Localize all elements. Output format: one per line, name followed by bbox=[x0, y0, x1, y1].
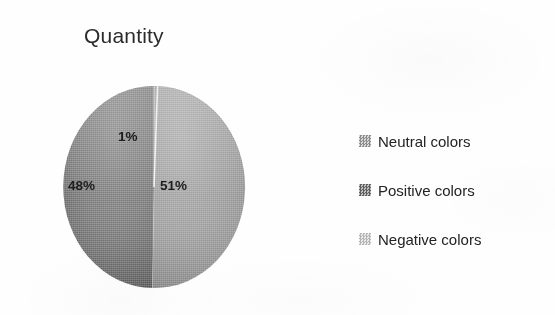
legend-swatch-neutral-colors bbox=[359, 135, 371, 147]
legend-swatch-negative-colors bbox=[359, 233, 371, 245]
chart-canvas: Quantity bbox=[0, 0, 555, 315]
chart-legend: Neutral colors Positive colors Negative … bbox=[359, 131, 539, 249]
pie-label-negative: 48% bbox=[68, 178, 95, 193]
chart-title: Quantity bbox=[84, 24, 164, 48]
legend-label-negative-colors: Negative colors bbox=[378, 232, 481, 247]
legend-swatch-positive-colors bbox=[359, 184, 371, 196]
legend-item-negative-colors[interactable]: Negative colors bbox=[359, 229, 539, 249]
pie-label-neutral: 1% bbox=[118, 129, 138, 144]
legend-item-neutral-colors[interactable]: Neutral colors bbox=[359, 131, 539, 151]
pie-label-positive: 51% bbox=[160, 178, 187, 193]
legend-label-neutral-colors: Neutral colors bbox=[378, 134, 471, 149]
legend-label-positive-colors: Positive colors bbox=[378, 183, 475, 198]
legend-item-positive-colors[interactable]: Positive colors bbox=[359, 180, 539, 200]
